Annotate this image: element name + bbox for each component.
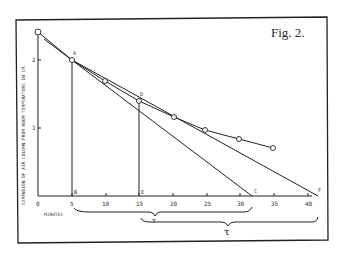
figure-frame (16, 17, 328, 243)
tau-large-label: τ (224, 226, 230, 237)
svg-text:35: 35 (271, 200, 279, 207)
svg-text:0: 0 (36, 200, 40, 207)
svg-text:1: 1 (32, 124, 36, 131)
svg-text:5: 5 (70, 200, 74, 207)
x-tick-labels: 0 5 10 15 20 25 30 35 40 (36, 200, 313, 207)
svg-text:B: B (74, 189, 77, 195)
svg-text:2: 2 (32, 56, 36, 63)
svg-text:C: C (254, 188, 257, 194)
svg-text:E: E (141, 189, 144, 195)
y-tick-labels: 1 2 (32, 56, 36, 131)
x-axis-label: MINUTES (44, 212, 63, 217)
svg-text:30: 30 (237, 200, 245, 207)
svg-text:20: 20 (170, 200, 178, 207)
tau-small-label: τ (152, 217, 156, 225)
svg-text:25: 25 (204, 200, 212, 207)
brace-tau-small (74, 207, 252, 216)
svg-text:F: F (318, 187, 321, 193)
svg-text:D: D (140, 91, 143, 97)
svg-text:15: 15 (136, 200, 144, 207)
svg-text:10: 10 (102, 200, 110, 207)
y-axis-label: EXPANSION OF AIR COLUMN FROM ROOM TEMPER… (21, 64, 26, 205)
chart-figure: 0 5 10 15 20 25 30 35 40 1 2 MINUTES EXP… (0, 0, 345, 254)
point-labels: A D B E C F (73, 50, 321, 195)
tangent-line-DF (72, 60, 318, 196)
svg-text:40: 40 (305, 200, 313, 207)
svg-text:A: A (73, 50, 76, 56)
data-markers (35, 29, 276, 151)
brace-tau-large (141, 217, 318, 226)
